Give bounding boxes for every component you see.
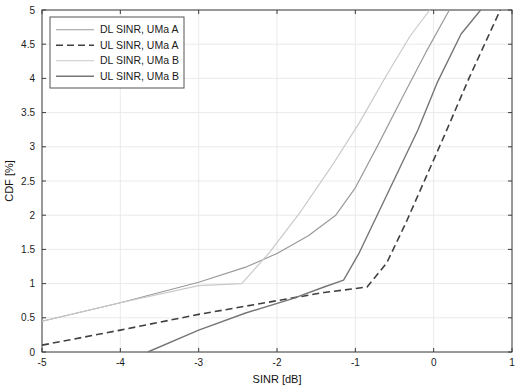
x-tick-label: 0 [431, 357, 437, 368]
y-tick-label: 1 [29, 278, 35, 289]
legend-label-2: DL SINR, UMa B [100, 54, 179, 66]
chart-legend: DL SINR, UMa AUL SINR, UMa ADL SINR, UMa… [50, 17, 184, 88]
y-tick-label: 3 [29, 141, 35, 152]
y-tick-label: 4.5 [21, 39, 35, 50]
y-tick-label: 3.5 [21, 107, 35, 118]
y-tick-label: 2 [29, 210, 35, 221]
y-tick-label: 2.5 [21, 176, 35, 187]
cdf-line-chart: -5-4-3-2-10100.511.522.533.544.55 SINR [… [0, 0, 528, 388]
y-tick-label: 4 [29, 73, 35, 84]
x-axis-title: SINR [dB] [253, 373, 302, 385]
x-tick-label: -5 [38, 357, 47, 368]
x-tick-label: 1 [509, 357, 515, 368]
y-tick-label: 5 [29, 5, 35, 16]
y-tick-label: 0 [29, 347, 35, 358]
legend-label-0: DL SINR, UMa A [100, 23, 178, 35]
chart-figure: -5-4-3-2-10100.511.522.533.544.55 SINR [… [0, 0, 528, 388]
y-tick-label: 0.5 [21, 312, 35, 323]
x-tick-label: -1 [351, 357, 360, 368]
x-tick-label: -4 [116, 357, 125, 368]
x-tick-label: -3 [194, 357, 203, 368]
x-tick-label: -2 [273, 357, 282, 368]
legend-label-3: UL SINR, UMa B [100, 70, 179, 82]
legend-label-1: UL SINR, UMa A [100, 39, 178, 51]
y-tick-label: 1.5 [21, 244, 35, 255]
y-axis-title: CDF [%] [3, 160, 15, 202]
axis-titles: SINR [dB]CDF [%] [3, 160, 301, 385]
